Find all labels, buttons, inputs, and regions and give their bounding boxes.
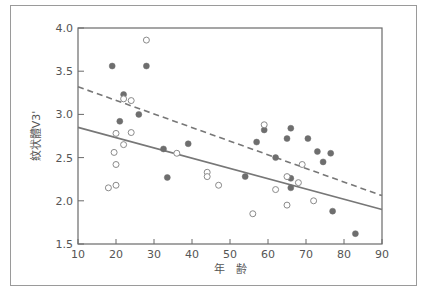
plot-border	[78, 28, 382, 244]
data-point-open	[113, 162, 119, 168]
data-point-filled	[109, 63, 115, 69]
x-tick-label: 90	[375, 248, 389, 261]
data-point-filled	[117, 118, 123, 124]
data-point-filled	[305, 136, 311, 142]
data-point-open	[216, 182, 222, 188]
data-point-filled	[288, 185, 294, 191]
x-tick-label: 10	[71, 248, 85, 261]
y-tick-label: 4.0	[56, 22, 74, 35]
data-point-filled	[273, 155, 279, 161]
data-point-filled	[242, 174, 248, 180]
x-axis-title: 年 齢	[214, 262, 247, 276]
x-tick-label: 40	[185, 248, 199, 261]
data-point-open	[143, 37, 149, 43]
data-point-filled	[136, 111, 142, 117]
x-tick-label: 30	[147, 248, 161, 261]
data-point-open	[121, 96, 127, 102]
data-point-open	[299, 162, 305, 168]
scatter-chart: 1020304050607080901.52.02.53.03.54.0 年 齢…	[0, 0, 421, 298]
data-point-filled	[143, 63, 149, 69]
y-tick-label: 2.5	[56, 152, 74, 165]
x-tick-label: 20	[109, 248, 123, 261]
y-tick-label: 3.5	[56, 65, 74, 78]
data-point-filled	[185, 141, 191, 147]
x-tick-label: 80	[337, 248, 351, 261]
x-tick-label: 70	[299, 248, 313, 261]
data-point-open	[284, 174, 290, 180]
data-point-open	[261, 122, 267, 128]
data-point-open	[250, 211, 256, 217]
data-point-open	[204, 174, 210, 180]
y-axis-title: 紋状體V3'	[29, 111, 43, 162]
data-point-open	[113, 130, 119, 136]
data-point-open	[128, 130, 134, 136]
data-point-filled	[320, 159, 326, 165]
y-tick-label: 1.5	[56, 238, 74, 251]
x-tick-label: 60	[261, 248, 275, 261]
regression-open-line	[78, 127, 382, 209]
y-tick-label: 3.0	[56, 108, 74, 121]
plot-area: 1020304050607080901.52.02.53.03.54.0	[56, 22, 390, 261]
data-point-filled	[254, 139, 260, 145]
data-point-filled	[352, 231, 358, 237]
data-point-filled	[314, 149, 320, 155]
data-point-filled	[164, 174, 170, 180]
data-point-open	[311, 198, 317, 204]
data-point-filled	[330, 208, 336, 214]
data-point-open	[111, 149, 117, 155]
data-point-filled	[284, 136, 290, 142]
data-point-open	[105, 185, 111, 191]
data-point-filled	[328, 150, 334, 156]
data-point-filled	[161, 146, 167, 152]
data-point-open	[174, 150, 180, 156]
data-point-open	[113, 182, 119, 188]
data-point-open	[295, 180, 301, 186]
data-point-open	[121, 142, 127, 148]
data-point-open	[128, 98, 134, 104]
data-point-filled	[288, 125, 294, 131]
data-point-open	[273, 187, 279, 193]
x-tick-label: 50	[223, 248, 237, 261]
y-tick-label: 2.0	[56, 195, 74, 208]
data-point-open	[284, 202, 290, 208]
